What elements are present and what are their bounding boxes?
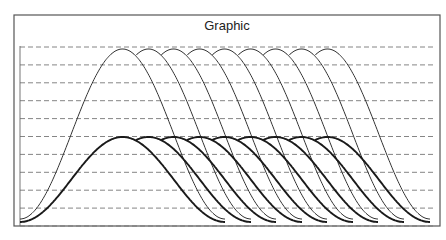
thin-curve (315, 49, 430, 219)
thick-curve-series (20, 137, 430, 222)
thick-curve (315, 137, 430, 222)
chart-figure: Graphic (0, 0, 446, 240)
thin-curve (212, 49, 327, 219)
thick-curve (136, 137, 251, 222)
thin-curve (289, 49, 404, 219)
thin-curve (187, 49, 302, 219)
thin-curve-series (20, 49, 430, 219)
thin-curve (238, 49, 353, 219)
thin-curve (161, 49, 276, 219)
thin-curve (263, 49, 378, 219)
thin-curve (136, 49, 251, 219)
thick-curve (20, 137, 225, 222)
thin-curve (20, 49, 225, 219)
thick-curve (289, 137, 404, 222)
thick-curve (238, 137, 353, 222)
chart-title: Graphic (204, 18, 250, 33)
thick-curve (187, 137, 302, 222)
